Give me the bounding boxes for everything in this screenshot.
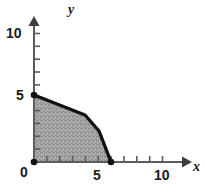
x-axis-arrow-icon [182, 157, 192, 168]
y-axis-arrow-icon [29, 16, 40, 26]
feasible-region-figure: 10 5 0 5 10 y x [0, 0, 205, 194]
plot-canvas [0, 0, 205, 194]
feasible-region-shading [34, 95, 111, 162]
vertex-dot-6-0 [108, 159, 115, 166]
x-tick-label-10: 10 [154, 168, 170, 182]
origin-label: 0 [20, 165, 28, 179]
vertex-dot-0-5 [31, 92, 38, 99]
vertex-dot-origin [31, 159, 38, 166]
x-axis-label: x [193, 160, 200, 174]
y-axis-label: y [68, 3, 74, 17]
y-tick-label-5: 5 [16, 88, 24, 102]
y-tick-label-10: 10 [6, 26, 22, 40]
x-tick-label-5: 5 [93, 168, 101, 182]
